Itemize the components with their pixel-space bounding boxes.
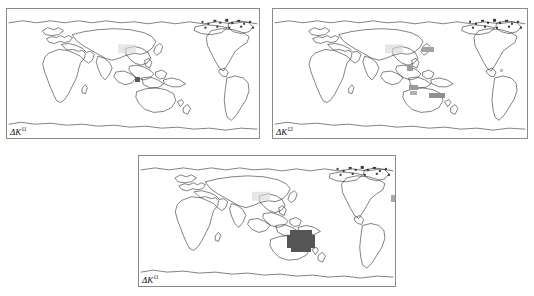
panel-label-superscript: 12	[287, 126, 293, 132]
data-cell	[407, 65, 413, 71]
map-panel-dk11-bottom: ΔK11	[138, 155, 396, 287]
data-cell	[135, 77, 140, 82]
panel-label-dk12: ΔK12	[276, 126, 293, 137]
figure-root: ΔK11	[0, 0, 534, 296]
panel-label-superscript: 11	[21, 126, 26, 132]
data-cell	[410, 91, 417, 95]
data-cell	[291, 246, 311, 252]
panel-label-dk11: ΔK11	[10, 126, 27, 137]
data-cell	[500, 69, 503, 72]
world-coastline-map	[273, 9, 527, 138]
data-cell	[422, 47, 434, 52]
data-cell	[429, 93, 445, 98]
map-panel-dk12-top-right: ΔK12	[272, 8, 528, 139]
data-cell	[409, 85, 418, 90]
world-coastline-map	[7, 9, 259, 138]
data-cell	[391, 195, 396, 202]
map-panel-dk11-top-left: ΔK11	[6, 8, 260, 139]
panel-label-superscript: 11	[153, 274, 158, 280]
world-coastline-map	[139, 156, 395, 286]
panel-label-dk11-bottom: ΔK11	[142, 274, 159, 285]
